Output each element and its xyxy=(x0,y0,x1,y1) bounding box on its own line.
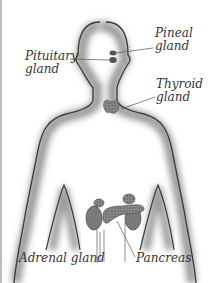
pituitary-gland xyxy=(109,57,117,63)
thyroid-label: Thyroidgland xyxy=(156,78,203,104)
thyroid-gland xyxy=(104,100,119,113)
adrenal-label: Adrenal gland xyxy=(19,252,105,265)
thyroid-leader xyxy=(121,97,155,109)
left-adrenal-gland xyxy=(94,199,104,207)
pineal-label: Pinealgland xyxy=(155,27,193,53)
pancreas-label: Pancreas xyxy=(136,252,191,265)
pituitary-label: Pituitarygland xyxy=(25,50,78,76)
endocrine-diagram: Pinealgland Pituitarygland Thyroidgland … xyxy=(0,0,223,283)
right-adrenal-gland xyxy=(123,194,135,204)
pineal-gland xyxy=(110,51,117,56)
left-kidney xyxy=(86,206,102,230)
